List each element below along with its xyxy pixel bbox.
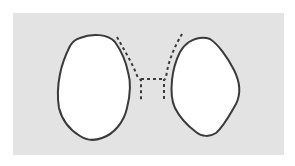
left-lobe xyxy=(58,35,130,140)
thyroid-diagram xyxy=(0,0,295,166)
right-lobe xyxy=(171,38,239,136)
